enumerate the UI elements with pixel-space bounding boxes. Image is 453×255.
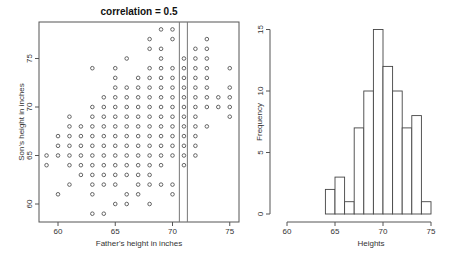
histogram-bar [325, 189, 335, 214]
histogram-bar [345, 202, 355, 214]
histogram-bar [421, 202, 431, 214]
histogram: 60657075 051015 Heights Frequency [0, 0, 453, 255]
histogram-bar [373, 30, 383, 215]
x-tick-label: 70 [379, 227, 388, 236]
histogram-bar [364, 91, 374, 214]
histogram-bar [335, 177, 345, 214]
histogram-x-label: Heights [357, 239, 384, 248]
x-tick-label: 75 [427, 227, 436, 236]
y-tick-label: 10 [256, 86, 265, 95]
histogram-bars [325, 30, 431, 215]
y-tick-label: 0 [256, 211, 265, 216]
histogram-bar [412, 116, 422, 214]
histogram-x-axis: 60657075 [283, 222, 436, 236]
x-tick-label: 65 [331, 227, 340, 236]
histogram-bar [393, 91, 403, 214]
figure: correlation = 0.5 60657075 60657075 Fath… [0, 0, 453, 255]
x-tick-label: 60 [283, 227, 292, 236]
histogram-bar [402, 128, 412, 214]
histogram-y-label: Frequency [255, 103, 264, 141]
histogram-bar [354, 128, 364, 214]
y-tick-label: 5 [256, 150, 265, 155]
y-tick-label: 15 [256, 25, 265, 34]
histogram-bar [383, 66, 393, 214]
